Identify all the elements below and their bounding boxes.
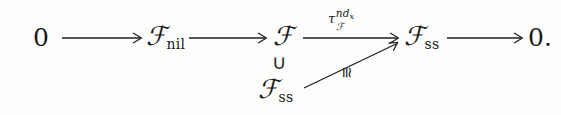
script-f-glyph: ℱ [146, 21, 166, 51]
arrow-zero-to-fnil [62, 33, 142, 42]
term-f-ss-bottom: ℱss [258, 76, 293, 104]
script-f-glyph: ℱ [404, 21, 424, 51]
arrow-label-iso: ≅ [339, 66, 354, 79]
arrow-fnil-to-f [189, 33, 267, 42]
arrow-f-to-fss [303, 33, 399, 42]
term-f-ss-bottom-subscript: ss [279, 89, 294, 105]
arrow-diagonal-iso [304, 42, 398, 88]
arrow-label-tau: τndxℱ [328, 8, 354, 32]
arrow-fss-to-zero [447, 33, 523, 42]
term-zero-left: 0 [33, 25, 49, 50]
commutative-diagram: 0 ℱnil ℱ ℱss 0. ∪ ℱss τndxℱ ≅ [0, 0, 561, 115]
tau-superscript-subscript: x [350, 12, 355, 21]
term-f-nil-subscript: nil [167, 36, 186, 52]
containment-symbol: ∪ [272, 52, 287, 72]
term-f-middle: ℱ [273, 23, 293, 49]
script-f-glyph: ℱ [258, 74, 278, 104]
tau-glyph: τ [328, 11, 335, 26]
script-f-glyph: ℱ [273, 21, 293, 51]
term-f-nil: ℱnil [146, 23, 185, 51]
term-f-ss-top-subscript: ss [425, 36, 440, 52]
tau-superscript: ndx [336, 8, 355, 22]
tau-script-stack: ndxℱ [336, 8, 355, 32]
term-zero-right: 0. [528, 25, 552, 50]
tau-subscript: ℱ [336, 22, 355, 32]
tau-superscript-main: nd [336, 7, 350, 19]
term-f-ss-top: ℱss [404, 23, 439, 51]
